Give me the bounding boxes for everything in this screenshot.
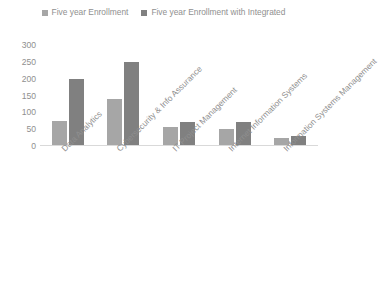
y-axis-tick-label: 300 (22, 41, 36, 50)
square-swatch-icon (42, 10, 48, 16)
square-swatch-icon (141, 10, 147, 16)
legend-entry-five-year-enrollment-with-integrated: Five year Enrollment with Integrated (141, 8, 285, 17)
legend-label: Five year Enrollment with Integrated (151, 8, 285, 17)
y-axis: 300250200150100500 (0, 38, 36, 149)
y-axis-tick-label: 150 (22, 91, 36, 100)
y-axis-tick-label: 50 (26, 125, 36, 134)
chart-legend: Five year Enrollment Five year Enrollmen… (0, 8, 327, 17)
y-axis-tick-label: 200 (22, 74, 36, 83)
y-axis-tick-label: 0 (31, 142, 36, 151)
legend-entry-five-year-enrollment: Five year Enrollment (42, 8, 129, 17)
y-axis-tick-label: 250 (22, 57, 36, 66)
legend-label: Five year Enrollment (52, 8, 129, 17)
y-axis-tick-label: 100 (22, 108, 36, 117)
